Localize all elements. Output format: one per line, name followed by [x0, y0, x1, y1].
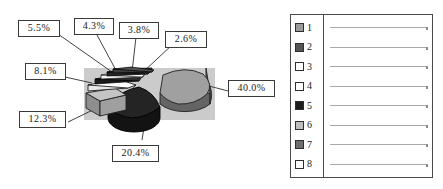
- legend-swatch-icon-8: [295, 160, 304, 169]
- callout-40-0: 40.0%: [228, 80, 275, 97]
- pie-slice-8: [113, 67, 154, 73]
- legend-key-3: 3: [291, 62, 323, 72]
- legend-key-5: 5: [291, 101, 323, 111]
- leader-line-3-8: [132, 37, 136, 72]
- callout-20-4: 20.4%: [112, 145, 159, 162]
- legend-item-1[interactable]: 1: [291, 18, 432, 38]
- legend-key-2: 2: [291, 42, 323, 52]
- legend-number-2: 2: [307, 42, 312, 52]
- legend-item-6[interactable]: 6: [291, 116, 432, 136]
- chart-panel: 5.5% 4.3% 3.8% 2.6% 8.1% 40.0% 12.3% 20.…: [0, 0, 285, 189]
- legend-swatch-icon-3: [295, 62, 304, 71]
- legend-label-redacted-8: [330, 164, 427, 165]
- callout-4-3: 4.3%: [74, 18, 114, 35]
- legend-key-4: 4: [291, 81, 323, 91]
- legend-swatch-icon-2: [295, 43, 304, 52]
- legend: 1 2 3: [290, 14, 433, 178]
- legend-items: 1 2 3: [291, 15, 432, 177]
- legend-item-8[interactable]: 8: [291, 155, 432, 175]
- legend-key-7: 7: [291, 140, 323, 150]
- callout-5-5: 5.5%: [18, 20, 60, 37]
- legend-number-7: 7: [307, 140, 312, 150]
- legend-swatch-icon-5: [295, 101, 304, 110]
- legend-item-5[interactable]: 5: [291, 96, 432, 116]
- pie-slice-1: [160, 68, 212, 112]
- leader-line-5-5: [58, 34, 112, 72]
- legend-label-redacted-5: [330, 105, 427, 106]
- legend-label-redacted-3: [330, 66, 427, 67]
- callout-8-1: 8.1%: [25, 63, 66, 80]
- legend-swatch-icon-7: [295, 140, 304, 149]
- legend-key-8: 8: [291, 159, 323, 169]
- legend-number-8: 8: [307, 159, 312, 169]
- pie-chart-figure: 5.5% 4.3% 3.8% 2.6% 8.1% 40.0% 12.3% 20.…: [0, 0, 443, 189]
- pie-slice-3: [86, 88, 126, 116]
- legend-swatch-icon-4: [295, 82, 304, 91]
- legend-label-redacted-2: [330, 47, 427, 48]
- legend-item-7[interactable]: 7: [291, 135, 432, 155]
- callout-3-8: 3.8%: [119, 22, 159, 39]
- legend-label-redacted-4: [330, 86, 427, 87]
- callout-2-6: 2.6%: [165, 31, 207, 48]
- legend-item-2[interactable]: 2: [291, 38, 432, 58]
- legend-number-6: 6: [307, 120, 312, 130]
- legend-number-4: 4: [307, 81, 312, 91]
- legend-number-3: 3: [307, 62, 312, 72]
- legend-label-redacted-6: [330, 125, 427, 126]
- legend-item-3[interactable]: 3: [291, 57, 432, 77]
- legend-divider: [323, 152, 324, 178]
- legend-key-6: 6: [291, 120, 323, 130]
- legend-swatch-icon-6: [295, 121, 304, 130]
- legend-number-1: 1: [307, 23, 312, 33]
- legend-swatch-icon-1: [295, 23, 304, 32]
- legend-label-redacted-1: [330, 27, 427, 28]
- legend-label-redacted-7: [330, 144, 427, 145]
- callout-12-3: 12.3%: [19, 111, 66, 128]
- legend-key-1: 1: [291, 23, 323, 33]
- legend-item-4[interactable]: 4: [291, 77, 432, 97]
- legend-number-5: 5: [307, 101, 312, 111]
